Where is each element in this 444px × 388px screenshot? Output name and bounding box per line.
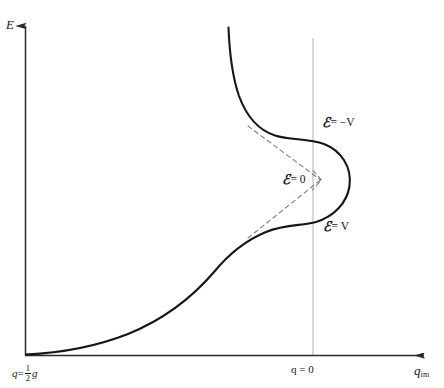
annotation-e-minus-v: ℰ= −V — [322, 115, 355, 129]
script-e-symbol: ℰ — [323, 219, 332, 234]
main-curve — [26, 28, 350, 355]
origin-label-equals: = — [18, 367, 24, 379]
origin-axis-label: q=12g — [12, 364, 37, 382]
fraction-numerator: 1 — [25, 364, 31, 373]
annotation-e-minus-v-text: = −V — [331, 116, 355, 128]
reference-line-label: q = 0 — [291, 364, 314, 375]
annotation-e-plus-v: ℰ= V — [323, 219, 349, 233]
script-e-symbol: ℰ — [322, 115, 331, 130]
script-e-symbol: ℰ — [282, 172, 291, 187]
x-axis-label: qim — [414, 364, 430, 379]
figure-container: E qim q=12g q = 0 ℰ= −V ℰ= 0 ℰ= V — [0, 0, 444, 388]
origin-label-rhs: g — [32, 367, 38, 379]
fraction-denominator: 2 — [25, 373, 31, 383]
y-axis-label: E — [6, 18, 14, 31]
origin-label-fraction: 12 — [25, 364, 31, 382]
plot-canvas — [0, 0, 444, 388]
annotation-e-zero: ℰ= 0 — [282, 172, 306, 186]
annotation-e-zero-text: = 0 — [291, 173, 306, 185]
annotation-e-plus-v-text: = V — [332, 220, 349, 232]
x-axis-label-subscript: im — [421, 370, 430, 379]
dashed-lower-line — [248, 180, 321, 238]
